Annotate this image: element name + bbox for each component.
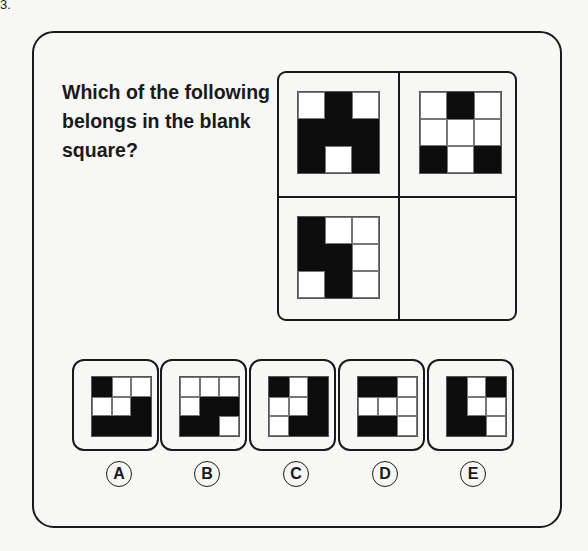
option-c-label[interactable]: C <box>283 461 309 487</box>
empty-cell <box>467 377 487 397</box>
empty-cell <box>486 397 506 417</box>
filled-cell <box>352 146 379 173</box>
filled-cell <box>467 416 487 436</box>
filled-cell <box>92 416 112 436</box>
empty-cell <box>358 397 378 417</box>
empty-cell <box>486 416 506 436</box>
empty-cell <box>269 416 289 436</box>
filled-cell <box>269 377 289 397</box>
filled-cell <box>180 416 200 436</box>
empty-cell <box>474 119 501 146</box>
filled-cell <box>447 397 467 417</box>
option-d-card[interactable] <box>338 359 425 451</box>
empty-cell <box>92 397 112 417</box>
empty-cell <box>420 119 447 146</box>
empty-cell <box>420 92 447 119</box>
filled-cell <box>352 119 379 146</box>
filled-cell <box>325 271 352 298</box>
empty-cell <box>378 397 398 417</box>
filled-cell <box>200 416 220 436</box>
option-b-card[interactable] <box>160 359 247 451</box>
pattern-grid <box>297 91 380 174</box>
pattern-grid <box>357 376 418 437</box>
puzzle-cell-top-left <box>297 91 380 174</box>
pattern-grid <box>179 376 240 437</box>
filled-cell <box>308 397 328 417</box>
filled-cell <box>131 416 151 436</box>
pattern-grid <box>268 376 329 437</box>
filled-cell <box>298 146 325 173</box>
option-d-label[interactable]: D <box>372 461 398 487</box>
filled-cell <box>219 397 239 417</box>
empty-cell <box>325 146 352 173</box>
filled-cell <box>325 119 352 146</box>
empty-cell <box>180 377 200 397</box>
puzzle-cell-top-right <box>419 91 502 174</box>
option-a-card[interactable] <box>72 359 159 451</box>
option-c-card[interactable] <box>249 359 336 451</box>
option-b-label[interactable]: B <box>194 461 220 487</box>
filled-cell <box>325 92 352 119</box>
pattern-grid <box>419 91 502 174</box>
filled-cell <box>447 377 467 397</box>
empty-cell <box>397 416 417 436</box>
filled-cell <box>308 377 328 397</box>
pattern-grid <box>91 376 152 437</box>
puzzle-cell-blank <box>400 198 515 319</box>
empty-cell <box>289 397 309 417</box>
puzzle-matrix <box>277 71 517 321</box>
filled-cell <box>486 377 506 397</box>
question-number-fragment: 3. <box>0 0 11 12</box>
filled-cell <box>358 416 378 436</box>
filled-cell <box>289 416 309 436</box>
empty-cell <box>219 416 239 436</box>
pattern-grid <box>446 376 507 437</box>
empty-cell <box>112 377 132 397</box>
empty-cell <box>474 92 501 119</box>
filled-cell <box>325 244 352 271</box>
empty-cell <box>180 397 200 417</box>
empty-cell <box>200 377 220 397</box>
puzzle-cell-bottom-left <box>297 216 380 299</box>
filled-cell <box>200 397 220 417</box>
empty-cell <box>112 397 132 417</box>
filled-cell <box>378 377 398 397</box>
filled-cell <box>474 146 501 173</box>
filled-cell <box>358 377 378 397</box>
empty-cell <box>298 271 325 298</box>
empty-cell <box>219 377 239 397</box>
filled-cell <box>378 416 398 436</box>
filled-cell <box>298 119 325 146</box>
empty-cell <box>325 217 352 244</box>
empty-cell <box>352 271 379 298</box>
filled-cell <box>308 416 328 436</box>
empty-cell <box>397 377 417 397</box>
empty-cell <box>352 244 379 271</box>
filled-cell <box>112 416 132 436</box>
filled-cell <box>298 217 325 244</box>
empty-cell <box>352 217 379 244</box>
empty-cell <box>352 92 379 119</box>
option-e-label[interactable]: E <box>460 461 486 487</box>
option-e-card[interactable] <box>427 359 514 451</box>
option-a-label[interactable]: A <box>106 461 132 487</box>
empty-cell <box>298 92 325 119</box>
empty-cell <box>131 377 151 397</box>
empty-cell <box>467 397 487 417</box>
pattern-grid <box>297 216 380 299</box>
empty-cell <box>447 119 474 146</box>
empty-cell <box>289 377 309 397</box>
filled-cell <box>92 377 112 397</box>
filled-cell <box>447 416 467 436</box>
filled-cell <box>447 92 474 119</box>
empty-cell <box>397 397 417 417</box>
filled-cell <box>131 397 151 417</box>
filled-cell <box>420 146 447 173</box>
empty-cell <box>269 397 289 417</box>
filled-cell <box>298 244 325 271</box>
empty-cell <box>447 146 474 173</box>
question-text: Which of the following belongs in the bl… <box>62 78 272 165</box>
